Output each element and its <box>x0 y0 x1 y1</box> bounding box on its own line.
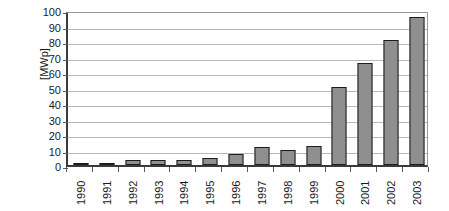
x-tick-label: 1991 <box>101 179 113 205</box>
y-tick-label: 100 <box>28 7 61 17</box>
x-tick-label: 1996 <box>230 179 242 205</box>
x-tick-mark <box>402 167 403 172</box>
bar <box>410 17 425 165</box>
x-tick-mark <box>247 167 248 172</box>
bar-slot <box>249 13 275 165</box>
bar-slot <box>146 13 172 165</box>
x-tick-label: 2000 <box>334 179 346 205</box>
x-tick-mark <box>325 167 326 172</box>
x-tick-label: 1994 <box>178 179 190 205</box>
bar-slot <box>301 13 327 165</box>
bar <box>177 160 192 165</box>
bar-slot <box>94 13 120 165</box>
bar <box>280 150 295 165</box>
y-tick-label: 90 <box>28 23 61 33</box>
x-axis-tick-marks <box>66 167 428 173</box>
bar-slot <box>352 13 378 165</box>
x-tick-mark <box>144 167 145 172</box>
y-tick-label: 80 <box>28 38 61 48</box>
x-tick-mark <box>299 167 300 172</box>
x-tick-label: 1990 <box>75 179 87 205</box>
bar <box>125 160 140 165</box>
bar <box>332 87 347 165</box>
bar-chart: [MWp] 0102030405060708090100 19901991199… <box>0 0 449 211</box>
y-tick-label: 70 <box>28 54 61 64</box>
bar-slot <box>378 13 404 165</box>
bar <box>99 163 114 165</box>
x-tick-mark <box>273 167 274 172</box>
bar <box>254 147 269 165</box>
y-tick-label: 30 <box>28 116 61 126</box>
y-axis-tick-labels: 0102030405060708090100 <box>28 12 61 167</box>
plot-area <box>66 12 428 167</box>
bars-layer <box>68 13 427 165</box>
x-tick-label: 1997 <box>256 179 268 205</box>
x-tick-label: 1993 <box>153 179 165 205</box>
bar <box>358 63 373 165</box>
x-tick-mark <box>221 167 222 172</box>
y-tick-label: 10 <box>28 147 61 157</box>
bar-slot <box>197 13 223 165</box>
x-tick-mark <box>92 167 93 172</box>
x-tick-label: 1992 <box>127 179 139 205</box>
x-tick-mark <box>350 167 351 172</box>
bar <box>73 163 88 165</box>
bar-slot <box>120 13 146 165</box>
x-tick-label: 2002 <box>385 179 397 205</box>
y-tick-label: 40 <box>28 100 61 110</box>
y-tick-label: 20 <box>28 131 61 141</box>
bar <box>306 146 321 165</box>
x-tick-mark <box>428 167 429 172</box>
bar-slot <box>171 13 197 165</box>
x-tick-mark <box>195 167 196 172</box>
x-tick-mark <box>66 167 67 172</box>
x-axis-tick-labels: 1990199119921993199419951996199719981999… <box>66 174 428 211</box>
x-tick-label: 1998 <box>282 179 294 205</box>
y-tick-label: 60 <box>28 69 61 79</box>
bar-slot <box>223 13 249 165</box>
y-tick-label: 0 <box>28 162 61 172</box>
bar <box>151 160 166 165</box>
y-tick-label: 50 <box>28 85 61 95</box>
x-tick-label: 2003 <box>411 179 423 205</box>
x-tick-label: 1995 <box>204 179 216 205</box>
bar-slot <box>327 13 353 165</box>
bar <box>229 154 244 165</box>
x-tick-mark <box>376 167 377 172</box>
bar-slot <box>404 13 430 165</box>
x-tick-mark <box>118 167 119 172</box>
x-tick-label: 2001 <box>359 179 371 205</box>
x-tick-label: 1999 <box>308 179 320 205</box>
x-tick-mark <box>169 167 170 172</box>
bar-slot <box>275 13 301 165</box>
bar <box>203 158 218 165</box>
bar <box>384 40 399 165</box>
bar-slot <box>68 13 94 165</box>
